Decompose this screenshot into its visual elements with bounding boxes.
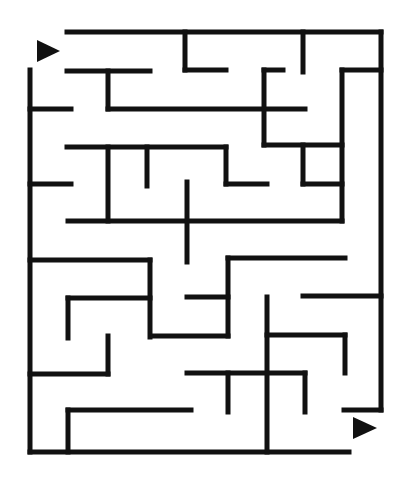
start-arrow-icon (37, 40, 60, 62)
maze-puzzle (0, 0, 412, 480)
maze-walls (30, 32, 381, 452)
maze-canvas (0, 0, 412, 480)
end-arrow-icon (353, 417, 377, 439)
